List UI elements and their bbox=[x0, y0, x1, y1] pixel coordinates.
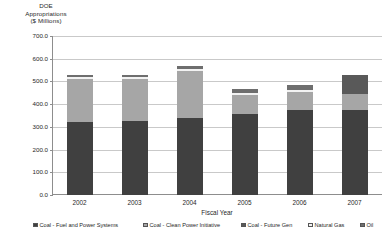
y-axis-labels: 0.0100.0200.0300.0400.0500.0600.0700.0 bbox=[0, 36, 48, 195]
y-axis-tick-label: 0.0 bbox=[6, 192, 48, 198]
bar-stack[interactable] bbox=[287, 85, 313, 195]
bar-group[interactable] bbox=[177, 36, 203, 195]
y-axis-title-line-3: ($ Millions) bbox=[4, 17, 88, 25]
legend-item[interactable]: Coal - Future Gen bbox=[241, 222, 292, 228]
legend-swatch-icon bbox=[360, 223, 365, 228]
x-axis-tick-label: 2007 bbox=[335, 199, 375, 206]
bar-segment[interactable] bbox=[342, 94, 368, 109]
bar-group[interactable] bbox=[287, 36, 313, 195]
x-axis-tick-label: 2005 bbox=[225, 199, 265, 206]
legend-item[interactable]: Coal - Clean Power Initiative bbox=[143, 222, 220, 228]
y-axis-title-line-2: Appropriations bbox=[4, 10, 88, 18]
bar-stack[interactable] bbox=[232, 89, 258, 195]
bar-segment[interactable] bbox=[287, 110, 313, 195]
legend-item-label: Oil bbox=[367, 222, 374, 228]
x-axis-tick-label: 2006 bbox=[280, 199, 320, 206]
bar-group[interactable] bbox=[67, 36, 93, 195]
legend-item[interactable]: Oil bbox=[360, 222, 373, 228]
legend-swatch-icon bbox=[241, 223, 246, 228]
y-axis-title: DOE Appropriations ($ Millions) bbox=[4, 2, 88, 25]
x-axis-tick-label: 2002 bbox=[60, 199, 100, 206]
bar-stack[interactable] bbox=[342, 75, 368, 195]
bar-stack[interactable] bbox=[122, 75, 148, 195]
legend-item-label: Coal - Clean Power Initiative bbox=[150, 222, 221, 228]
bar-stack[interactable] bbox=[177, 66, 203, 195]
bar-segment[interactable] bbox=[287, 92, 313, 110]
x-axis-tick-label: 2004 bbox=[170, 199, 210, 206]
bar-stack[interactable] bbox=[67, 75, 93, 195]
bars-layer bbox=[52, 36, 382, 195]
y-axis-tick-label: 600.0 bbox=[6, 56, 48, 62]
legend-item-label: Coal - Fuel and Power Systems bbox=[40, 222, 119, 228]
bar-segment[interactable] bbox=[232, 95, 258, 114]
bar-segment[interactable] bbox=[122, 79, 148, 121]
legend-swatch-icon bbox=[143, 223, 148, 228]
legend-swatch-icon bbox=[308, 223, 313, 228]
y-axis-tick-label: 300.0 bbox=[6, 124, 48, 130]
bar-segment[interactable] bbox=[177, 71, 203, 119]
y-axis-tick-label: 200.0 bbox=[6, 147, 48, 153]
bar-segment[interactable] bbox=[67, 122, 93, 195]
x-axis-title: Fiscal Year bbox=[52, 209, 382, 216]
legend-item-label: Coal - Future Gen bbox=[248, 222, 293, 228]
bar-segment[interactable] bbox=[232, 114, 258, 195]
y-axis-title-line-1: DOE bbox=[4, 2, 88, 10]
x-axis-tick-label: 2003 bbox=[115, 199, 155, 206]
chart-legend: Coal - Fuel and Power SystemsCoal - Clea… bbox=[0, 222, 387, 235]
legend-item-label: Natural Gas bbox=[315, 222, 345, 228]
legend-item[interactable]: Coal - Fuel and Power Systems bbox=[33, 222, 118, 228]
bar-segment[interactable] bbox=[122, 121, 148, 195]
legend-item[interactable]: Natural Gas bbox=[308, 222, 344, 228]
bar-segment[interactable] bbox=[342, 110, 368, 195]
y-axis-tick-label: 100.0 bbox=[6, 169, 48, 175]
bar-group[interactable] bbox=[342, 36, 368, 195]
bar-segment[interactable] bbox=[342, 75, 368, 95]
bar-segment[interactable] bbox=[177, 118, 203, 195]
y-axis-tick-label: 500.0 bbox=[6, 78, 48, 84]
bar-segment[interactable] bbox=[67, 79, 93, 122]
bar-group[interactable] bbox=[232, 36, 258, 195]
bar-group[interactable] bbox=[122, 36, 148, 195]
chart-container: DOE Appropriations ($ Millions) 0.0100.0… bbox=[0, 0, 387, 235]
y-axis-tick-mark bbox=[50, 195, 53, 196]
y-axis-tick-label: 700.0 bbox=[6, 33, 48, 39]
y-axis-tick-label: 400.0 bbox=[6, 101, 48, 107]
legend-swatch-icon bbox=[33, 223, 38, 228]
